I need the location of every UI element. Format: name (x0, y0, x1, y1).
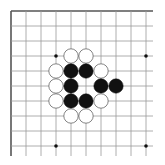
star-point (54, 54, 58, 58)
go-board (0, 0, 165, 165)
white-stone (94, 94, 108, 108)
black-stone (64, 79, 78, 93)
white-stone (49, 94, 63, 108)
black-stone (94, 79, 108, 93)
star-point (144, 54, 148, 58)
white-stone (79, 109, 93, 123)
white-stone (64, 109, 78, 123)
black-stone (79, 64, 93, 78)
black-stone (109, 79, 123, 93)
white-stone (94, 64, 108, 78)
black-stone (79, 94, 93, 108)
white-stone (79, 49, 93, 63)
white-stone (64, 49, 78, 63)
white-stone (49, 64, 63, 78)
black-stone (64, 94, 78, 108)
board-grid (11, 11, 153, 156)
star-point (54, 144, 58, 148)
white-stone (49, 79, 63, 93)
star-point (144, 144, 148, 148)
black-stone (64, 64, 78, 78)
